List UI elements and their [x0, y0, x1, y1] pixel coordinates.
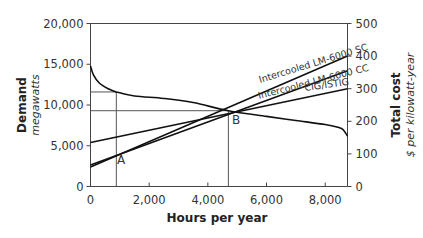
y-right-tick-label: 300	[356, 82, 378, 96]
right-axis-subtitle: $ per kilowatt-year	[404, 51, 417, 157]
x-axis-title: Hours per year	[167, 211, 268, 225]
x-tick-label: 0	[87, 193, 94, 207]
y-left-tick-label: 10,000	[43, 98, 83, 112]
y-left-tick-label: 0	[76, 180, 83, 194]
chart: 02,0004,0006,0008,00005,00010,00015,0002…	[0, 0, 423, 238]
left-axis-subtitle: megawatts	[29, 74, 42, 136]
y-right-tick-label: 500	[356, 17, 378, 31]
point-a-label: A	[117, 153, 126, 167]
y-left-tick-label: 20,000	[43, 17, 83, 31]
x-tick-label: 8,000	[309, 193, 342, 207]
tick-marks	[87, 24, 352, 187]
y-left-tick-label: 5,000	[51, 139, 84, 153]
point-b-label: B	[232, 113, 240, 127]
y-left-tick-label: 15,000	[43, 57, 83, 71]
right-axis-title: Total cost	[389, 72, 403, 137]
left-axis-title: Demand	[15, 77, 29, 133]
y-right-tick-label: 200	[356, 114, 378, 128]
x-tick-label: 2,000	[133, 193, 166, 207]
series-line-3	[91, 89, 348, 143]
x-tick-label: 6,000	[250, 193, 283, 207]
axes	[91, 23, 348, 187]
x-tick-label: 4,000	[191, 193, 224, 207]
y-right-tick-label: 0	[356, 180, 363, 194]
series	[91, 56, 348, 167]
tick-labels: 02,0004,0006,0008,00005,00010,00015,0002…	[43, 17, 377, 207]
y-right-tick-label: 100	[356, 147, 378, 161]
